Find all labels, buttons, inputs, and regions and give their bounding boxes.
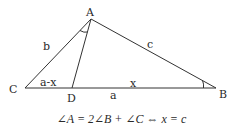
angle-relation-formula: ∠A = 2∠B + ∠C ⇔ x = c xyxy=(0,112,243,127)
side-ab xyxy=(91,19,216,88)
side-label-c: c xyxy=(147,38,153,51)
vertex-label-a: A xyxy=(85,6,95,19)
vertex-label-d: D xyxy=(67,92,76,105)
vertex-label-c: C xyxy=(9,83,17,96)
angle-mark-a xyxy=(80,31,88,33)
side-label-a: a xyxy=(110,89,117,102)
side-label-b: b xyxy=(43,40,50,53)
vertex-label-b: B xyxy=(219,88,227,101)
side-label-a-minus-x: a-x xyxy=(40,76,57,89)
side-label-x: x xyxy=(130,77,137,90)
